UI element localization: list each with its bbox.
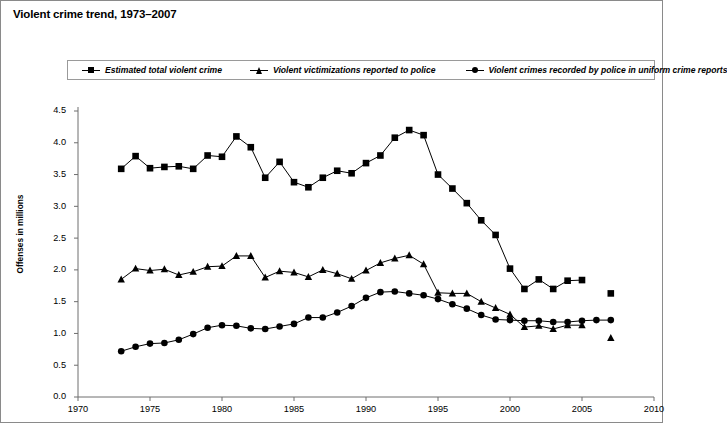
data-point-circle <box>305 314 312 321</box>
data-point-circle <box>435 296 442 303</box>
data-point-square <box>564 277 571 284</box>
data-point-circle <box>492 316 499 323</box>
data-point-circle <box>377 289 384 296</box>
data-point-square <box>190 166 197 173</box>
data-point-triangle <box>276 267 283 274</box>
data-point-square <box>320 174 327 181</box>
data-point-square <box>492 232 499 239</box>
data-point-circle <box>420 292 427 299</box>
data-point-square <box>507 265 514 272</box>
data-point-square <box>521 286 528 293</box>
data-point-circle <box>593 317 600 324</box>
data-point-circle <box>204 324 211 331</box>
data-point-square <box>334 167 341 174</box>
data-point-circle <box>478 312 485 319</box>
data-point-circle <box>392 288 399 295</box>
data-point-square <box>392 134 399 141</box>
data-point-circle <box>334 309 341 316</box>
footnote <box>11 416 651 422</box>
data-point-square <box>406 127 413 134</box>
data-point-circle <box>550 319 557 326</box>
data-point-square <box>204 152 211 159</box>
data-point-square <box>276 159 283 166</box>
data-point-triangle <box>420 260 427 267</box>
data-point-circle <box>363 295 370 302</box>
data-point-circle <box>507 317 514 324</box>
data-point-square <box>248 144 255 151</box>
data-point-circle <box>536 317 543 324</box>
data-point-square <box>435 171 442 178</box>
data-point-circle <box>564 319 571 326</box>
data-point-circle <box>276 323 283 330</box>
data-point-triangle <box>506 310 513 317</box>
data-point-circle <box>608 317 615 324</box>
plot-area <box>1 1 664 423</box>
data-point-square <box>478 217 485 224</box>
data-point-triangle <box>607 334 614 341</box>
data-point-circle <box>161 340 168 347</box>
data-point-circle <box>291 321 298 328</box>
data-point-square <box>262 174 269 181</box>
data-point-circle <box>147 340 154 347</box>
data-point-square <box>132 153 139 160</box>
data-point-circle <box>248 325 255 332</box>
data-point-triangle <box>406 251 413 258</box>
data-point-square <box>377 152 384 159</box>
data-point-square <box>348 170 355 177</box>
data-point-triangle <box>262 274 269 281</box>
data-point-square <box>147 165 154 172</box>
data-point-circle <box>233 323 240 330</box>
data-point-triangle <box>478 298 485 305</box>
data-point-square <box>420 132 427 139</box>
data-point-square <box>233 133 240 140</box>
data-point-triangle <box>492 304 499 311</box>
data-point-circle <box>262 326 269 333</box>
data-point-circle <box>449 301 456 308</box>
data-point-square <box>363 160 370 167</box>
data-point-circle <box>118 348 125 355</box>
data-point-circle <box>579 317 586 324</box>
data-point-circle <box>219 322 226 329</box>
data-point-square <box>536 276 543 283</box>
data-point-triangle <box>319 266 326 273</box>
data-point-square <box>118 166 125 173</box>
data-point-square <box>579 277 586 284</box>
data-point-square <box>161 164 168 171</box>
data-point-circle <box>464 305 471 312</box>
data-point-square <box>449 185 456 192</box>
data-point-square <box>608 290 615 297</box>
data-point-square <box>291 179 298 186</box>
series-circle <box>118 288 614 354</box>
data-point-triangle <box>434 289 441 296</box>
data-point-circle <box>521 317 528 324</box>
data-point-circle <box>132 343 139 350</box>
data-point-square <box>464 200 471 207</box>
data-point-square <box>219 153 226 160</box>
data-point-square <box>550 286 557 293</box>
data-point-triangle <box>161 265 168 272</box>
data-point-circle <box>190 331 197 338</box>
data-point-circle <box>406 290 413 297</box>
data-point-square <box>305 184 312 191</box>
data-point-triangle <box>218 262 225 269</box>
data-point-circle <box>320 314 327 321</box>
data-point-circle <box>348 303 355 310</box>
data-point-triangle <box>132 265 139 272</box>
data-point-circle <box>176 337 183 344</box>
data-point-square <box>176 163 183 170</box>
series-line <box>121 130 582 289</box>
data-point-triangle <box>362 267 369 274</box>
data-point-triangle <box>118 276 125 283</box>
